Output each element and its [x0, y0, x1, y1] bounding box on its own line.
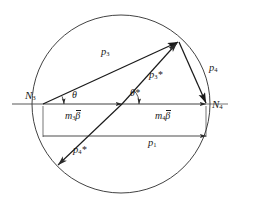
vector-label-p4: p4 — [209, 63, 218, 74]
angle-label-theta: θ — [72, 90, 77, 100]
dimension-label-m3beta: m3β — [65, 111, 80, 121]
vector-label-p3: p3 — [101, 47, 110, 58]
diagram-canvas — [0, 0, 264, 206]
dimension-label-m4beta: m4β — [155, 111, 170, 121]
point-label-n3: N3 — [25, 90, 36, 102]
vector-label-p1: p1 — [148, 138, 157, 149]
vector-label-p3-star: p3* — [149, 70, 163, 81]
newton-diagram-figure: N3 N4 p3 p3* p4 p4* p1 θ θ* m3β m4β — [0, 0, 264, 206]
theta-angle-arc — [62, 96, 64, 104]
vector-label-p4-star: p4* — [73, 145, 87, 156]
point-label-n4: N4 — [212, 99, 223, 111]
angle-label-theta-star: θ* — [130, 88, 140, 99]
